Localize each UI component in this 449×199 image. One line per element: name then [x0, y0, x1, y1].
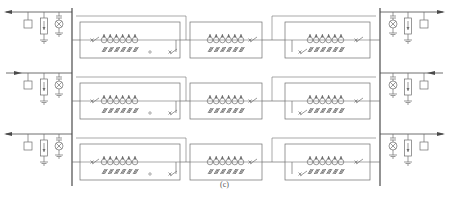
lamp-icon: [340, 156, 343, 159]
load-box-icon: [24, 134, 32, 150]
lamp-icon: [121, 95, 124, 98]
lamp-icon: [340, 95, 343, 98]
lamp-icon: [103, 95, 106, 98]
ground-icon: [404, 159, 412, 165]
right-module: [285, 83, 370, 119]
lamp-icon: [215, 34, 218, 37]
lamp-icon: [227, 34, 230, 37]
load-box-icon: [420, 12, 428, 28]
lamp-icon: [340, 34, 343, 37]
capacitor-bank: [208, 108, 244, 113]
left-module: [80, 144, 180, 180]
capacitor-bank: [208, 47, 244, 52]
load-box-icon: [420, 134, 428, 150]
lamp-icon: [109, 34, 112, 37]
breaker-switch-icon: [299, 110, 308, 115]
ground-icon: [404, 98, 412, 104]
lamp-icon: [127, 95, 130, 98]
lamp-array: [207, 156, 244, 165]
capacitor-bank: [208, 169, 244, 174]
ground-icon: [40, 37, 48, 43]
breaker-switch-icon: [91, 98, 100, 103]
lamp-indicator-icon: [389, 134, 397, 158]
capacitor-bank: [102, 108, 138, 113]
lamp-indicator-icon: [55, 12, 63, 36]
figure-caption: (c): [0, 180, 449, 189]
terminal-icon: [149, 112, 151, 114]
lamp-icon: [209, 34, 212, 37]
lamp-icon: [240, 34, 243, 37]
lamp-icon: [227, 95, 230, 98]
lamp-array: [101, 95, 138, 104]
arrow-icon: [4, 132, 12, 136]
lamp-icon: [115, 95, 118, 98]
lamp-icon: [103, 156, 106, 159]
middle-module: [190, 83, 262, 119]
lamp-icon: [240, 95, 243, 98]
lamp-indicator-icon: [55, 134, 63, 158]
terminal-icon: [149, 173, 151, 175]
lamp-icon: [134, 95, 137, 98]
lamp-icon: [209, 95, 212, 98]
lamp-array: [207, 34, 244, 43]
lamp-icon: [227, 156, 230, 159]
capacitor-bank: [308, 108, 344, 113]
ground-icon: [55, 30, 63, 36]
lamp-icon: [309, 34, 312, 37]
terminal-icon: [149, 51, 151, 53]
middle-module: [190, 144, 262, 180]
lamp-array: [101, 34, 138, 43]
arrow-icon: [437, 10, 445, 14]
load-box-icon: [24, 12, 32, 28]
ground-icon: [389, 30, 397, 36]
lamp-icon: [221, 95, 224, 98]
lamp-array: [101, 156, 138, 165]
arrow-icon: [14, 71, 22, 75]
breaker-switch-icon: [91, 159, 100, 164]
arrow-icon: [4, 10, 12, 14]
fuse-resistor-icon: [404, 73, 412, 104]
load-box-icon: [420, 73, 428, 89]
breaker-switch-icon: [249, 98, 258, 103]
lamp-icon: [115, 156, 118, 159]
lamp-icon: [233, 156, 236, 159]
breaker-switch-icon: [299, 171, 308, 176]
middle-module: [190, 22, 262, 58]
lamp-icon: [215, 156, 218, 159]
power-distribution-diagram: [0, 0, 449, 199]
ground-icon: [404, 37, 412, 43]
lamp-icon: [321, 34, 324, 37]
lamp-icon: [127, 34, 130, 37]
lamp-icon: [115, 34, 118, 37]
lamp-icon: [233, 95, 236, 98]
fuse-resistor-icon: [40, 134, 48, 165]
lamp-icon: [127, 156, 130, 159]
lamp-array: [307, 34, 344, 43]
lamp-indicator-icon: [389, 12, 397, 36]
lamp-array: [307, 156, 344, 165]
lamp-icon: [315, 156, 318, 159]
lamp-icon: [327, 34, 330, 37]
capacitor-bank: [308, 169, 344, 174]
fuse-resistor-icon: [404, 134, 412, 165]
ground-icon: [40, 98, 48, 104]
lamp-icon: [121, 156, 124, 159]
arrow-icon: [437, 132, 445, 136]
lamp-icon: [121, 34, 124, 37]
lamp-icon: [240, 156, 243, 159]
lamp-icon: [209, 156, 212, 159]
lamp-indicator-icon: [55, 73, 63, 97]
lamp-icon: [233, 34, 236, 37]
right-module: [285, 22, 370, 58]
fuse-resistor-icon: [40, 73, 48, 104]
lamp-icon: [309, 95, 312, 98]
ground-icon: [389, 152, 397, 158]
lamp-icon: [134, 156, 137, 159]
lamp-icon: [109, 156, 112, 159]
lamp-icon: [327, 156, 330, 159]
row-1: [4, 10, 445, 58]
breaker-switch-icon: [91, 37, 100, 42]
lamp-icon: [103, 34, 106, 37]
ground-icon: [40, 159, 48, 165]
breaker-switch-icon: [249, 159, 258, 164]
